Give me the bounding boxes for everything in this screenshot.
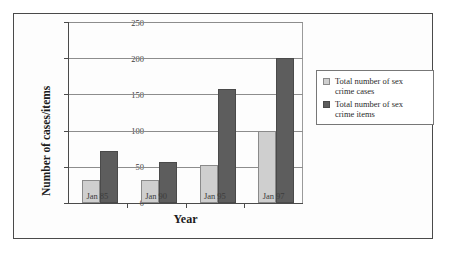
x-tick-3: [244, 203, 245, 208]
x-tick-label-jan97: Jan 97: [244, 191, 304, 201]
legend-swatch-items-icon: [323, 101, 330, 108]
chart-legend: Total number of sexcrime cases Total num…: [316, 70, 434, 125]
chart-figure: Number of cases/items 250 200 150 100 50…: [0, 0, 450, 257]
plot-area: [68, 22, 303, 203]
legend-item-items[interactable]: Total number of sexcrime items: [323, 99, 427, 119]
x-tick-label-jan85: Jan 85: [67, 191, 127, 201]
bars-layer: [68, 22, 303, 203]
x-tick-1: [127, 203, 128, 208]
x-tick-2: [186, 203, 187, 208]
legend-label-cases-line1: Total number of sex: [335, 76, 403, 86]
y-axis-title: Number of cases/items: [40, 26, 52, 196]
legend-label-items-line1: Total number of sex: [335, 99, 403, 109]
x-axis-title: Year: [68, 212, 303, 227]
legend-label-items-line2: crime items: [335, 109, 375, 119]
bar-items-jan95[interactable]: [218, 89, 236, 203]
x-tick-label-jan95: Jan 95: [185, 191, 245, 201]
legend-label-cases-line2: crime cases: [335, 86, 374, 96]
y-tick-0: [64, 203, 68, 204]
legend-item-cases[interactable]: Total number of sexcrime cases: [323, 76, 427, 96]
bar-items-jan97[interactable]: [276, 58, 294, 203]
legend-label-cases: Total number of sexcrime cases: [335, 76, 403, 96]
legend-swatch-cases-icon: [323, 78, 330, 85]
legend-label-items: Total number of sexcrime items: [335, 99, 403, 119]
x-tick-label-jan90: Jan 90: [126, 191, 186, 201]
